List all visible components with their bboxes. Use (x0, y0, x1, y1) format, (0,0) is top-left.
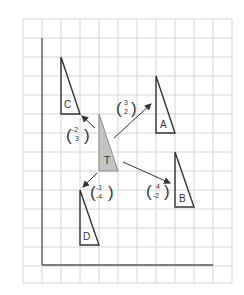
svg-text:-2: -2 (72, 126, 78, 133)
label-a: A (160, 119, 167, 130)
svg-text:): ) (164, 182, 170, 201)
triangle-c: C (61, 57, 80, 114)
vector-label-a: ( ) 3 2 (116, 99, 137, 118)
label-b: B (179, 193, 186, 204)
svg-text:-4: -4 (96, 193, 102, 200)
svg-text:(: ( (116, 99, 122, 118)
svg-text:): ) (84, 126, 90, 145)
svg-text:3: 3 (124, 99, 128, 106)
triangle-a: A (156, 76, 175, 133)
vector-label-c: ( ) -2 3 (66, 126, 90, 145)
svg-text:4: 4 (156, 183, 160, 190)
label-t: T (104, 155, 110, 166)
arrow-to-b (123, 162, 170, 183)
grid (23, 19, 232, 283)
svg-text:-1: -1 (96, 184, 102, 191)
label-c: C (64, 99, 71, 110)
label-d: D (83, 231, 90, 242)
vector-label-d: ( ) -1 -4 (90, 183, 114, 202)
svg-text:-2: -2 (153, 192, 159, 199)
translation-diagram: T A B C D ( ) 3 2 ( ) 4 -2 ( ) -2 (0, 0, 244, 295)
svg-text:(: ( (146, 182, 152, 201)
triangle-b: B (175, 152, 194, 207)
svg-text:): ) (131, 99, 137, 118)
svg-text:2: 2 (124, 108, 128, 115)
svg-text:): ) (108, 183, 114, 202)
svg-text:3: 3 (75, 135, 79, 142)
triangle-t: T (99, 114, 118, 171)
vector-label-b: ( ) 4 -2 (146, 182, 170, 201)
